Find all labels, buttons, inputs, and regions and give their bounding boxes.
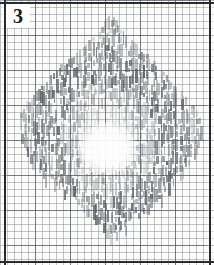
major-grid-lines xyxy=(0,0,214,265)
page-border-right xyxy=(209,0,211,265)
figure-number-label: 3 xyxy=(13,6,23,26)
fine-grid-lines xyxy=(0,0,214,265)
drawing-light-center xyxy=(78,122,136,174)
page-border-top xyxy=(0,2,214,4)
page-edge-fade xyxy=(0,0,214,265)
hatched-diamond-drawing xyxy=(0,0,214,265)
graph-paper-sheet: 3 xyxy=(0,0,214,265)
page-border-bottom xyxy=(0,261,214,263)
page-border-left xyxy=(4,0,6,265)
figure-number-box: 3 xyxy=(6,4,30,28)
